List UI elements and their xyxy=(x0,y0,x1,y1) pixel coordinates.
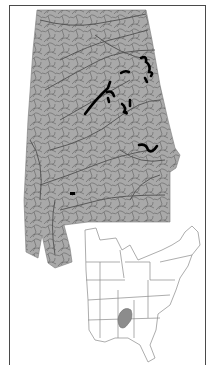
alabama-outline xyxy=(24,10,180,268)
alabama-map xyxy=(24,10,180,268)
range-segment xyxy=(108,98,109,102)
inset-outline xyxy=(85,226,200,362)
isolated-record-point xyxy=(70,192,75,195)
inset-map-eastern-us xyxy=(85,226,200,362)
range-segment xyxy=(145,78,147,82)
